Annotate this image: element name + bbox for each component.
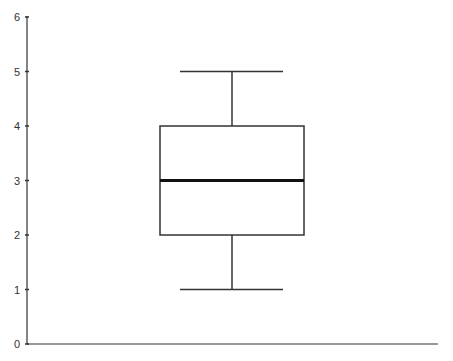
y-tick-label: 5 [14,66,20,78]
y-tick-label: 4 [14,120,20,132]
boxplot-chart: 0123456 [0,0,453,361]
y-tick-label: 2 [14,229,20,241]
y-tick-label: 1 [14,284,20,296]
y-tick-label: 6 [14,11,20,23]
y-tick-label: 3 [14,175,20,187]
y-tick-label: 0 [14,338,20,350]
